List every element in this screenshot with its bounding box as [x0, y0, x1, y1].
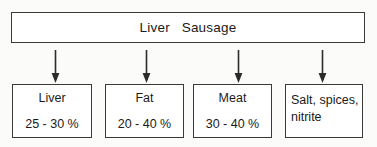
- component-label: Liver: [38, 92, 65, 105]
- component-label: Salt, spices, nitrite: [291, 92, 358, 126]
- down-arrow-icon: [51, 50, 60, 84]
- component-percentage: 25 - 30 %: [25, 118, 79, 131]
- component-label: Meat: [219, 92, 247, 105]
- down-arrow-icon: [142, 50, 151, 84]
- liver-sausage-composition-diagram: Liver Sausage Liver 25 - 30 %: [0, 0, 377, 147]
- component-label: Fat: [135, 92, 153, 105]
- down-arrow-icon: [234, 50, 243, 84]
- component-box-salt-spices-nitrite: Salt, spices, nitrite: [285, 84, 363, 138]
- header-bar-liver-sausage: Liver Sausage: [11, 12, 365, 43]
- component-box-liver: Liver 25 - 30 %: [12, 84, 92, 138]
- component-box-meat: Meat 30 - 40 %: [193, 84, 272, 138]
- component-percentage: 20 - 40 %: [118, 118, 172, 131]
- down-arrow-icon: [318, 50, 327, 84]
- header-title: Liver Sausage: [140, 21, 237, 35]
- component-box-fat: Fat 20 - 40 %: [105, 84, 184, 138]
- component-percentage: 30 - 40 %: [206, 118, 260, 131]
